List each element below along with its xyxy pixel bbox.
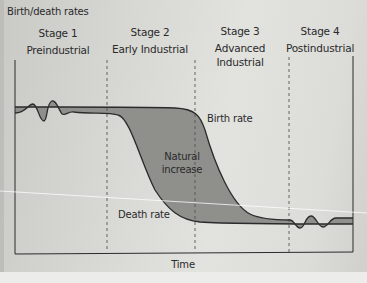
x-axis-label: Time (171, 259, 195, 271)
demographic-transition-diagram (0, 0, 367, 283)
natural-increase-label-line1: Natural (164, 151, 200, 163)
natural-increase-label-line2: increase (162, 164, 203, 176)
birth-rate-label: Birth rate (207, 113, 253, 125)
death-rate-label: Death rate (118, 209, 170, 221)
